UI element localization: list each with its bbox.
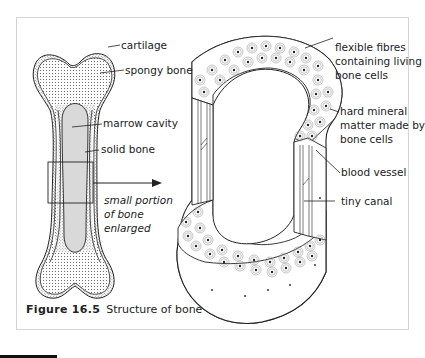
label-flexible-fibres-3: bone cells [335,69,388,82]
enlarge-note-line-2: of bone [104,208,144,221]
label-cartilage: cartilage [121,39,167,52]
label-spongy-bone: spongy bone [125,64,193,77]
figure-caption: Figure 16.5Structure of bone [26,303,202,316]
label-hard-mineral-2: matter made by [340,119,425,132]
label-hard-mineral-3: bone cells [340,133,393,146]
figure-number: Figure 16.5 [26,303,100,316]
label-flexible-fibres-2: containing living [335,55,422,68]
enlarged-bone-section [177,36,342,323]
label-tiny-canal: tiny canal [341,195,392,208]
enlarge-note-line-3: enlarged [104,222,151,235]
label-flexible-fibres-1: flexible fibres [335,41,406,54]
figure-title: Structure of bone [106,303,202,316]
label-marrow-cavity: marrow cavity [103,117,178,130]
label-hard-mineral-1: hard mineral [340,105,407,118]
label-blood-vessel: blood vessel [341,166,406,179]
arrow-icon [152,179,162,187]
long-bone [33,45,162,298]
enlarge-note-line-1: small portion [104,194,173,207]
label-solid-bone: solid bone [101,143,155,156]
